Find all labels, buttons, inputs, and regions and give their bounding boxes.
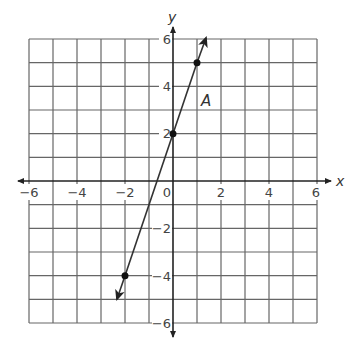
- x-tick-label: −6: [19, 185, 38, 200]
- y-axis-label: y: [167, 9, 177, 25]
- x-axis-label: x: [335, 173, 345, 189]
- x-tick-label: 4: [265, 185, 273, 200]
- line-a: [117, 276, 125, 299]
- point-neg2-neg4: [122, 272, 129, 279]
- y-tick-label: 4: [163, 79, 171, 94]
- point-1-5: [194, 59, 201, 66]
- x-tick-label: −4: [67, 185, 86, 200]
- x-tick-label: 6: [312, 185, 320, 200]
- line-a-label: A: [200, 92, 211, 110]
- x-tick-labels: −6 −4 −2 0 2 4 6: [19, 185, 320, 200]
- x-tick-label: 2: [217, 185, 225, 200]
- coordinate-plane: x y −6 −4 −2 0 2 4 6 6 4 2 −2 −4 −6 A: [0, 0, 354, 343]
- y-tick-label: −2: [152, 221, 171, 236]
- y-tick-label: 6: [163, 32, 171, 47]
- y-tick-label: −4: [152, 269, 171, 284]
- x-tick-label: −2: [115, 185, 134, 200]
- line-a-arrow-up: [197, 38, 206, 63]
- y-tick-label: −6: [152, 316, 171, 331]
- x-tick-label: 0: [163, 185, 171, 200]
- point-0-2: [170, 130, 177, 137]
- line-a-segment: [125, 63, 197, 276]
